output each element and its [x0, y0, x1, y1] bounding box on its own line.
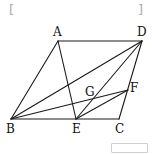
- label-E: E: [72, 122, 81, 136]
- segment-BF: [11, 90, 128, 119]
- label-F: F: [130, 81, 138, 95]
- segment-AE: [58, 41, 76, 119]
- right-bracket: ]: [138, 2, 143, 17]
- segment-DE: [76, 41, 142, 119]
- label-A: A: [52, 25, 62, 39]
- segment-AB: [11, 41, 58, 119]
- label-G: G: [85, 85, 95, 99]
- left-bracket: [: [9, 2, 14, 17]
- geometry-diagram: [ ] A D B E C F G: [0, 0, 152, 154]
- label-D: D: [137, 25, 147, 39]
- answer-box: [111, 143, 148, 153]
- label-C: C: [115, 122, 124, 136]
- label-B: B: [6, 122, 15, 136]
